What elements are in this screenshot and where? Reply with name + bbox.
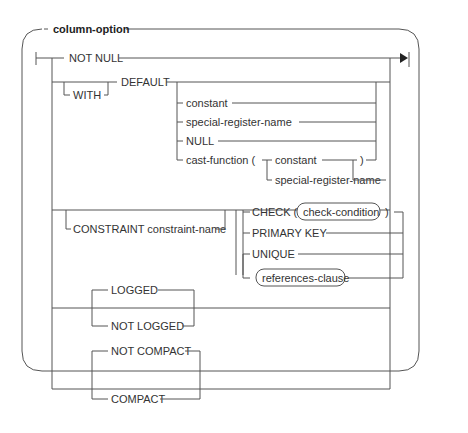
opt-cast-function: cast-function ( [186,154,255,166]
opt-null: NULL [186,135,214,147]
kw-unique: UNIQUE [252,248,295,260]
kw-default: DEFAULT [121,76,170,88]
kw-not-compact: NOT COMPACT [111,345,192,357]
opt-constant: constant [186,97,228,109]
kw-logged: LOGGED [111,284,158,296]
ref-references-clause: references-clause [262,272,349,284]
kw-check: CHECK ( [252,206,298,218]
kw-primary-key: PRIMARY KEY [252,227,327,239]
frame-border [22,29,419,371]
kw-constraint: CONSTRAINT constraint-name [73,223,226,235]
cast-close-paren: ) [360,154,364,166]
cast-constant: constant [275,154,317,166]
kw-not-null: NOT NULL [69,52,123,64]
end-arrow-icon [400,53,408,63]
diagram-title: column-option [53,23,130,35]
opt-special-register-name: special-register-name [186,116,292,128]
syntax-diagram: column-option NOT NULL DEFAULT WITH cons… [0,0,468,433]
kw-compact: COMPACT [111,393,165,405]
kw-with: WITH [73,89,101,101]
check-close-paren: ) [385,206,389,218]
ref-check-condition: check-condition [303,206,379,218]
kw-not-logged: NOT LOGGED [111,320,184,332]
